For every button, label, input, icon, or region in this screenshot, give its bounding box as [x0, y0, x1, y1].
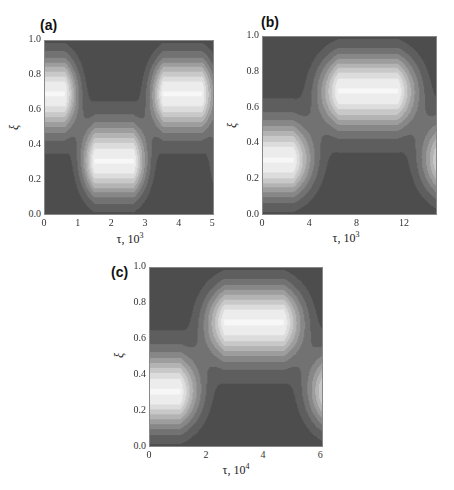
- ytick-label: 1.0: [124, 260, 146, 271]
- panel-b-label: (b): [261, 14, 279, 30]
- xtick-label: 8: [347, 217, 367, 228]
- ytick-label: 0.8: [237, 65, 259, 76]
- panel-c-ylabel: ξ: [112, 353, 127, 358]
- ytick-label: 0.6: [124, 332, 146, 343]
- panel-b-contour: [263, 37, 436, 214]
- xtick-label: 2: [196, 449, 216, 460]
- ytick-label: 0.8: [124, 296, 146, 307]
- xtick-label: 1: [68, 217, 88, 228]
- ytick-label: 0.2: [237, 172, 259, 183]
- panel-a-ylabel: ξ: [7, 125, 22, 130]
- xtick-label: 3: [135, 217, 155, 228]
- xtick-label: 6: [310, 449, 330, 460]
- ytick-label: 1.0: [19, 33, 41, 44]
- ytick-label: 0.4: [124, 368, 146, 379]
- xtick-label: 0: [252, 217, 272, 228]
- panel-a-xlabel: τ, 103: [90, 231, 170, 247]
- panel-c-plot-area: [149, 267, 323, 447]
- panel-c-contour: [150, 268, 322, 446]
- ytick-label: 1.0: [237, 29, 259, 40]
- panel-c-xlabel: τ, 104: [196, 462, 276, 478]
- panel-a-label: (a): [40, 17, 57, 33]
- xtick-label: 4: [169, 217, 189, 228]
- panel-a-contour: [45, 41, 213, 214]
- ytick-label: 0.8: [19, 68, 41, 79]
- xtick-label: 2: [101, 217, 121, 228]
- panel-b-ylabel: ξ: [225, 123, 240, 128]
- xtick-label: 4: [253, 449, 273, 460]
- ytick-label: 0.4: [19, 138, 41, 149]
- ytick-label: 0.2: [124, 404, 146, 415]
- panel-a-plot-area: [44, 40, 214, 215]
- xtick-label: 0: [139, 449, 159, 460]
- xtick-label: 12: [394, 217, 414, 228]
- xtick-label: 5: [202, 217, 222, 228]
- xtick-label: 4: [299, 217, 319, 228]
- ytick-label: 0.4: [237, 136, 259, 147]
- panel-b-xlabel: τ, 103: [306, 230, 386, 246]
- xtick-label: 0: [34, 217, 54, 228]
- ytick-label: 0.2: [19, 173, 41, 184]
- ytick-label: 0.6: [237, 101, 259, 112]
- panel-b-plot-area: [262, 36, 437, 215]
- ytick-label: 0.6: [19, 103, 41, 114]
